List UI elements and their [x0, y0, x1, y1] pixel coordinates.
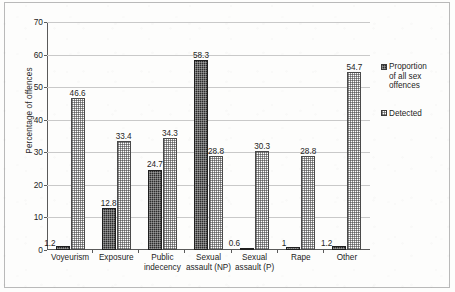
bar[interactable]: 46.6: [71, 98, 85, 250]
bar[interactable]: 33.4: [117, 141, 131, 250]
x-axis-tick-label-line: indecency: [139, 263, 185, 273]
bar-value-label: 58.3: [193, 52, 209, 60]
bar[interactable]: 30.3: [255, 151, 269, 250]
bar-value-label: 54.7: [346, 64, 362, 72]
x-axis-tick-label-line: Rape: [278, 253, 324, 263]
y-axis-title: Percentage of offences: [25, 26, 34, 196]
bar-group: 0.630.3: [232, 22, 278, 250]
y-axis-tick-label: 50: [34, 82, 43, 92]
x-axis-tick-label-line: Voyeurism: [47, 253, 93, 263]
x-axis-tick-label: Other: [324, 253, 370, 272]
bar-value-label: 30.3: [254, 143, 270, 151]
legend-label-line: offences: [389, 81, 451, 91]
bar-value-label: 28.8: [208, 148, 224, 156]
chart-page: Percentage of offences 010203040506070 1…: [0, 0, 455, 292]
legend-label-line: Proportion: [389, 62, 451, 72]
bar[interactable]: 0.6: [240, 248, 254, 250]
bar-group: 1.246.6: [47, 22, 93, 250]
bar-value-label: 12.8: [101, 200, 117, 208]
legend-label: Detected: [389, 109, 451, 119]
x-axis-tick-label-line: Other: [324, 253, 370, 263]
bar-value-label: 33.4: [116, 133, 132, 141]
chart-legend: Proportionof all sexoffencesDetected: [381, 62, 451, 136]
x-axis-labels: VoyeurismExposurePublicindecencySexualas…: [47, 253, 370, 272]
x-axis-tick-label-line: assault (P): [232, 263, 278, 273]
x-axis-tick-label-line: Public: [139, 253, 185, 263]
bar-value-label: 1.2: [44, 240, 55, 248]
bar[interactable]: 1: [286, 247, 300, 250]
bar-group: 58.328.8: [185, 22, 231, 250]
x-axis-tick-label-line: assault (NP): [185, 263, 231, 273]
bar[interactable]: 34.3: [163, 138, 177, 250]
x-axis-tick-label: Sexualassault (P): [232, 253, 278, 272]
x-axis-tick-label: Exposure: [93, 253, 139, 272]
y-axis-tick-label: 70: [34, 17, 43, 27]
bar[interactable]: 1.2: [56, 246, 70, 250]
x-axis-tick-label: Voyeurism: [47, 253, 93, 272]
bar-groups: 1.246.612.833.424.734.358.328.80.630.312…: [47, 22, 370, 250]
y-axis-tick-label: 0: [38, 245, 43, 255]
x-axis-tick-label: Rape: [278, 253, 324, 272]
x-axis-tick-label-line: Sexual: [185, 253, 231, 263]
legend-item[interactable]: Detected: [381, 109, 451, 119]
bar-value-label: 1: [282, 240, 287, 248]
legend-label-line: Detected: [389, 109, 451, 119]
bar[interactable]: 12.8: [102, 208, 116, 250]
y-axis-tick-label: 10: [34, 212, 43, 222]
bar-value-label: 28.8: [300, 148, 316, 156]
x-axis-tick-label-line: Sexual: [232, 253, 278, 263]
y-axis-tick-label: 60: [34, 50, 43, 60]
legend-swatch-icon: [381, 64, 387, 70]
y-axis-tick-label: 30: [34, 147, 43, 157]
bar[interactable]: 1.2: [332, 246, 346, 250]
bar[interactable]: 24.7: [148, 170, 162, 250]
bar-value-label: 1.2: [321, 240, 332, 248]
legend-item[interactable]: Proportionof all sexoffences: [381, 62, 451, 91]
legend-label-line: of all sex: [389, 72, 451, 82]
legend-swatch-icon: [381, 110, 387, 116]
bar-group: 1.254.7: [324, 22, 370, 250]
bar-value-label: 46.6: [70, 90, 86, 98]
x-axis-tick-label: Publicindecency: [139, 253, 185, 272]
bar[interactable]: 28.8: [301, 156, 315, 250]
x-axis-tick-label: Sexualassault (NP): [185, 253, 231, 272]
bar-value-label: 0.6: [229, 240, 240, 248]
bar-group: 24.734.3: [139, 22, 185, 250]
bar[interactable]: 28.8: [209, 156, 223, 250]
y-axis-tick-label: 40: [34, 115, 43, 125]
bar[interactable]: 54.7: [347, 72, 361, 250]
plot-area: 010203040506070 1.246.612.833.424.734.35…: [47, 22, 370, 250]
bar-group: 12.833.4: [93, 22, 139, 250]
bar-value-label: 34.3: [162, 130, 178, 138]
y-axis-tick-label: 20: [34, 180, 43, 190]
bar-value-label: 24.7: [147, 161, 163, 169]
bar[interactable]: 58.3: [194, 60, 208, 250]
bar-group: 128.8: [278, 22, 324, 250]
legend-label: Proportionof all sexoffences: [389, 62, 451, 91]
y-axis-tick-mark: [44, 250, 47, 251]
x-axis-tick-label-line: Exposure: [93, 253, 139, 263]
